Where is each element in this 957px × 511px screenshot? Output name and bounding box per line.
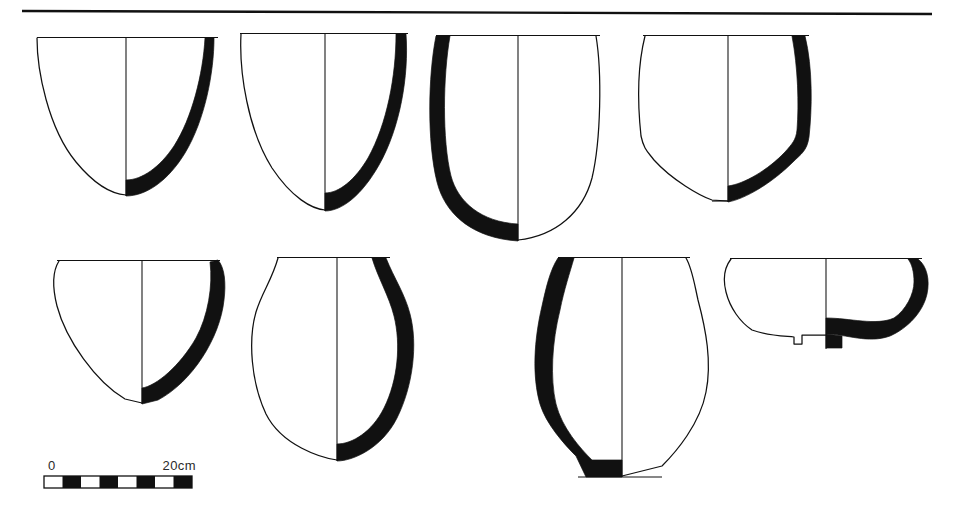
vessel-5-shallow-bowl-everted-rim[interactable] [54, 260, 225, 404]
scale-label-zero: 0 [48, 458, 56, 473]
vessel-5-outline [54, 261, 142, 403]
vessel-row-bottom [54, 258, 928, 478]
vessel-8-shallow-bowl-ring-foot[interactable] [724, 259, 928, 350]
scale-segment-5 [118, 476, 137, 488]
vessel-6-ovoid-jar-constricted-neck[interactable] [252, 258, 414, 462]
scale-bar-segments [44, 476, 192, 488]
vessel-5-section-fill [142, 260, 225, 404]
vessel-7-outline [622, 258, 708, 476]
vessel-4-outline [639, 36, 728, 201]
scale-segment-1 [44, 476, 63, 488]
vessel-3-deep-bowl-flattened-base[interactable] [430, 36, 600, 242]
scale-bar: 0 20cm [44, 458, 196, 488]
vessel-2-section-fill [325, 34, 407, 211]
scale-segment-2 [63, 476, 82, 488]
vessel-7-section-fill [535, 258, 622, 477]
scale-segment-8 [174, 476, 193, 488]
vessel-2-outline [241, 34, 325, 210]
vessel-1-section-fill [126, 38, 214, 196]
vessel-4-section-fill [728, 36, 811, 202]
pottery-profile-plate: 0 20cm [0, 0, 957, 511]
vessel-8-section-fill [826, 259, 928, 339]
scale-segment-4 [100, 476, 119, 488]
top-horizontal-rule [22, 11, 932, 14]
vessel-3-section-fill [430, 36, 518, 241]
vessel-6-outline [252, 258, 337, 460]
vessel-row-top [37, 34, 811, 242]
scale-segment-6 [137, 476, 156, 488]
scale-segment-7 [155, 476, 174, 488]
vessel-3-outline [518, 36, 600, 240]
vessel-1-conical-bowl-pointed-base[interactable] [37, 38, 218, 197]
top-rule-group [22, 11, 932, 14]
scale-segment-3 [81, 476, 100, 488]
scale-label-max: 20cm [163, 458, 196, 473]
vessel-8-foot-fill [826, 334, 842, 348]
vessel-4-flat-base-beaker[interactable] [639, 36, 811, 203]
vessel-6-section-fill [337, 258, 414, 461]
plate-canvas: 0 20cm [0, 0, 957, 511]
vessel-8-outline [724, 259, 826, 344]
vessel-1-outline [37, 38, 126, 195]
vessel-2-conical-bowl-rounded-base[interactable] [240, 34, 408, 212]
vessel-7-globular-jar-narrow-flat-base[interactable] [535, 258, 709, 478]
